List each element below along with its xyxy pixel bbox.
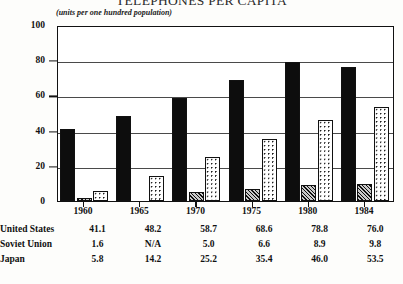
cell-japan-1980: 46.0 [292,252,348,267]
chart-subtitle: (units per one hundred population) [56,8,172,17]
cell-united-states-1960: 41.1 [70,222,126,237]
bar-japan-1960 [93,191,108,201]
x-tick-label-1960: 1960 [74,206,93,216]
bars-layer [58,27,393,201]
x-axis-labels: 196019651970197519801984 [57,206,394,220]
series-label-united-states: United States [0,222,70,237]
y-tick-label: 60 [36,92,46,102]
bar-japan-1975 [262,139,277,201]
cell-japan-1965: 14.2 [125,252,181,267]
bar-soviet-union-1980 [301,185,316,201]
x-tick-label-1984: 1984 [354,206,373,216]
bar-united-states-1980 [285,62,300,201]
cell-united-states-1984: 76.0 [347,222,403,237]
cell-japan-1975: 35.4 [236,252,292,267]
y-tick-mark [49,166,57,167]
y-tick-label: 80 [36,56,46,66]
bar-japan-1984 [374,107,389,201]
y-tick-label: 20 [36,162,46,172]
bar-united-states-1965 [116,116,131,201]
y-tick-label: 40 [36,127,46,137]
y-tick-label: 0 [40,197,45,207]
cell-soviet-union-1984: 9.8 [347,237,403,252]
x-tick-label-1970: 1970 [186,206,205,216]
bar-soviet-union-1970 [189,192,204,201]
cell-soviet-union-1980: 8.9 [292,237,348,252]
cell-japan-1984: 53.5 [347,252,403,267]
data-table: United States41.148.258.768.678.876.0Sov… [0,222,403,267]
cell-japan-1960: 5.8 [70,252,126,267]
cell-soviet-union-1970: 5.0 [181,237,237,252]
bar-japan-1965 [149,176,164,201]
values-table: United States41.148.258.768.678.876.0Sov… [0,222,403,267]
plot-area [57,26,394,202]
bar-united-states-1975 [229,80,244,201]
x-tick-label-1965: 1965 [130,206,149,216]
y-axis: 020406080100 [0,0,57,210]
table-row: United States41.148.258.768.678.876.0 [0,222,403,237]
x-tick-label-1980: 1980 [298,206,317,216]
cell-soviet-union-1960: 1.6 [70,237,126,252]
cell-united-states-1975: 68.6 [236,222,292,237]
cell-japan-1970: 25.2 [181,252,237,267]
cell-united-states-1965: 48.2 [125,222,181,237]
y-tick-mark [49,96,57,97]
bar-japan-1980 [318,120,333,201]
y-tick-mark [49,61,57,62]
bar-united-states-1970 [172,98,187,201]
y-tick-label: 100 [31,21,45,31]
series-label-japan: Japan [0,252,70,267]
bar-japan-1970 [205,157,220,201]
y-tick-mark [49,131,57,132]
cell-united-states-1970: 58.7 [181,222,237,237]
bar-united-states-1984 [341,67,356,201]
cell-soviet-union-1965: N/A [125,237,181,252]
table-row: Soviet Union1.6N/A5.06.68.99.8 [0,237,403,252]
bar-soviet-union-1960 [77,198,92,201]
bar-soviet-union-1975 [245,189,260,201]
series-label-soviet-union: Soviet Union [0,237,70,252]
cell-united-states-1980: 78.8 [292,222,348,237]
bar-soviet-union-1984 [357,184,372,201]
table-row: Japan5.814.225.235.446.053.5 [0,252,403,267]
cell-soviet-union-1975: 6.6 [236,237,292,252]
bar-united-states-1960 [60,129,75,201]
x-tick-label-1975: 1975 [242,206,261,216]
